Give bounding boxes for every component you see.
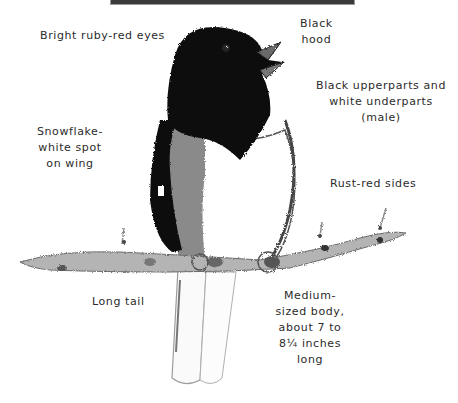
bird-body [150,27,295,268]
label-wing-spot: Snowflake- white spot on wing [30,124,110,172]
label-hood: Black hood [300,16,333,48]
bird-illustration [0,0,458,403]
tail [172,268,236,384]
label-tail: Long tail [92,294,145,310]
label-body: Medium- sized body, about 7 to 8¼ inches… [260,288,360,368]
label-eyes: Bright ruby-red eyes [40,28,165,44]
label-upperparts: Black upperparts and white underparts (m… [306,78,456,126]
wing-spot [158,186,164,196]
label-sides: Rust-red sides [330,176,416,192]
